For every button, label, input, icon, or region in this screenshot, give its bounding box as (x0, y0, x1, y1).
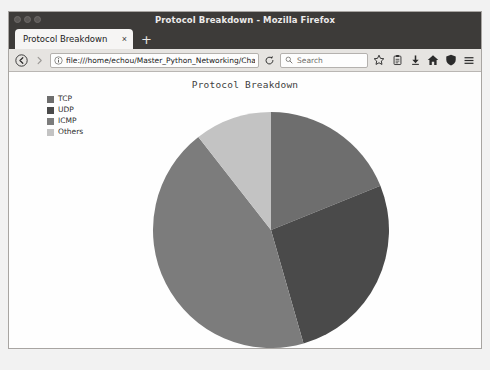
url-bar[interactable]: file:///home/echou/Master_Python_Network… (50, 53, 259, 68)
back-arrow-icon[interactable] (14, 53, 28, 67)
tab-close-icon[interactable]: × (122, 35, 127, 44)
maximize-icon[interactable] (34, 16, 41, 23)
navigation-toolbar: file:///home/echou/Master_Python_Network… (9, 49, 481, 72)
search-placeholder: Search (297, 56, 323, 65)
window-title-bar: Protocol Breakdown - Mozilla Firefox (9, 12, 481, 27)
shield-icon[interactable] (444, 53, 458, 67)
pie-chart-figure: Protocol Breakdown TCP UDP ICMP (9, 72, 481, 348)
url-text: file:///home/echou/Master_Python_Network… (66, 56, 255, 65)
legend-item-tcp: TCP (47, 94, 83, 104)
legend-item-udp: UDP (47, 105, 83, 115)
library-icon[interactable] (390, 53, 404, 67)
legend-label-tcp: TCP (58, 95, 72, 103)
legend-swatch-tcp (47, 96, 54, 103)
search-icon (285, 56, 293, 64)
close-icon[interactable] (14, 16, 21, 23)
chart-title: Protocol Breakdown (9, 79, 481, 90)
page-info-icon[interactable] (54, 56, 63, 65)
browser-tab[interactable]: Protocol Breakdown × (15, 29, 133, 49)
download-arrow-icon[interactable] (408, 53, 422, 67)
page-content-area: Protocol Breakdown TCP UDP ICMP (9, 72, 481, 348)
browser-window: Protocol Breakdown - Mozilla Firefox Pro… (8, 11, 482, 349)
legend-item-others: Others (47, 127, 83, 137)
new-tab-button[interactable]: + (133, 33, 152, 49)
star-icon[interactable] (372, 53, 386, 67)
minimize-icon[interactable] (24, 16, 31, 23)
window-title: Protocol Breakdown - Mozilla Firefox (9, 15, 481, 25)
hamburger-menu-icon[interactable] (462, 53, 476, 67)
reload-icon[interactable] (263, 53, 276, 67)
pie-slice-group (153, 112, 389, 348)
legend-item-icmp: ICMP (47, 116, 83, 126)
forward-arrow-icon (32, 53, 46, 67)
legend-label-icmp: ICMP (58, 117, 76, 125)
home-icon[interactable] (426, 53, 440, 67)
legend-label-others: Others (58, 128, 83, 136)
window-controls (9, 16, 41, 23)
browser-tab-label: Protocol Breakdown (23, 34, 117, 44)
legend-swatch-icmp (47, 118, 54, 125)
legend-swatch-udp (47, 107, 54, 114)
search-input[interactable]: Search (280, 53, 368, 68)
pie-chart (151, 110, 391, 348)
legend-label-udp: UDP (58, 106, 74, 114)
desktop-background: Protocol Breakdown - Mozilla Firefox Pro… (0, 0, 490, 370)
chart-legend: TCP UDP ICMP Others (47, 94, 83, 137)
tab-strip: Protocol Breakdown × + (9, 27, 481, 49)
toolbar-icon-group (372, 53, 476, 67)
legend-swatch-others (47, 129, 54, 136)
